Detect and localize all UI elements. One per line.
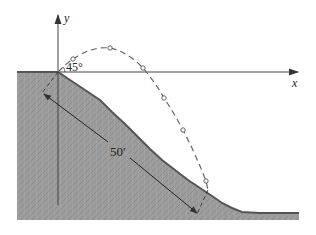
trajectory-marker [141,66,145,70]
trajectory-marker [181,128,185,132]
trajectory-marker [162,96,166,100]
ground-hillside [17,72,299,220]
slope-distance-label: 50′ [110,144,126,159]
trajectory-marker [108,46,112,50]
trajectory-marker [204,179,208,183]
x-axis-label: x [291,76,298,90]
launch-angle-arc [63,67,65,72]
y-axis-label: y [63,11,70,25]
trajectory-marker [71,57,75,61]
projectile-slope-diagram: y x 45° 50′ [0,0,316,235]
